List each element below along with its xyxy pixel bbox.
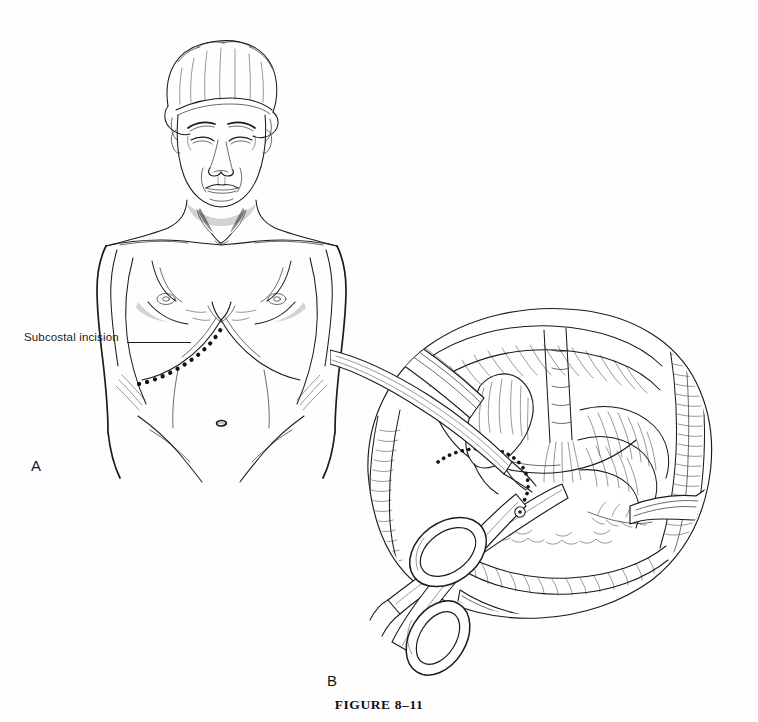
panel-letter-a: A: [31, 457, 41, 474]
patient-face: [171, 115, 271, 226]
figure-page: Subcostal incision A: [0, 0, 758, 722]
panel-letter-b: B: [327, 672, 337, 689]
patient-anterior-svg: [60, 18, 360, 488]
panel-a-illustration: [60, 18, 360, 488]
running-head: [0, 0, 758, 2]
figure-caption: FIGURE 8–11: [0, 697, 758, 713]
surgical-cap-icon: [165, 41, 278, 142]
operative-field-svg: [330, 290, 750, 680]
subcostal-incision-label: Subcostal incision: [24, 331, 119, 343]
panel-b-illustration: [330, 290, 750, 680]
subcostal-incision-leader-line: [127, 342, 191, 343]
patient-torso: [97, 246, 346, 482]
